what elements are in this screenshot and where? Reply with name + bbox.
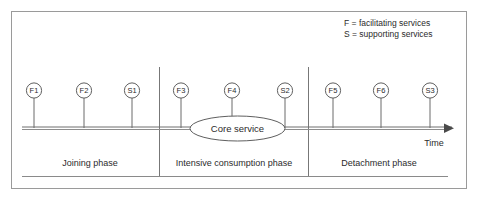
node-label-s1: S1: [127, 86, 136, 95]
core-service-label: Core service: [211, 123, 264, 134]
node-label-s2: S2: [280, 86, 289, 95]
time-axis-label: Time: [424, 138, 444, 148]
node-label-s3: S3: [425, 86, 434, 95]
phase-label-detachment: Detachment phase: [341, 158, 417, 168]
node-label-f2: F2: [80, 86, 89, 95]
phase-label-intensive: Intensive consumption phase: [176, 158, 293, 168]
node-label-f4: F4: [228, 86, 237, 95]
time-arrow-icon: [444, 124, 454, 134]
legend-line-supporting: S = supporting services: [344, 29, 433, 39]
figure-container: Core service F1 F2 S1 F3 F4 S2 F5 F6 S3 …: [0, 0, 477, 200]
node-label-f5: F5: [329, 86, 338, 95]
legend-line-facilitating: F = facilitating services: [344, 18, 430, 28]
node-label-f6: F6: [377, 86, 386, 95]
phase-label-joining: Joining phase: [62, 158, 118, 168]
node-label-f1: F1: [30, 86, 39, 95]
node-label-f3: F3: [177, 86, 186, 95]
